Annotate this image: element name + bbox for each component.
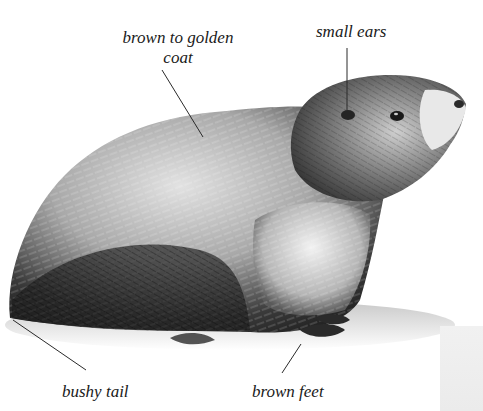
nose <box>454 100 464 108</box>
callout-feet-label: brown feet <box>252 382 324 402</box>
illustration-stage: brown to golden coat small ears bushy ta… <box>0 0 483 411</box>
photo-edge-strip <box>440 326 483 411</box>
marmot-head <box>291 75 466 201</box>
callout-coat-line-1: brown to golden <box>113 28 243 48</box>
ear <box>341 110 355 120</box>
eye <box>390 111 404 121</box>
callout-coat-label: brown to golden coat <box>113 28 243 68</box>
callout-ears-label: small ears <box>316 22 386 42</box>
callout-tail-label: bushy tail <box>62 382 129 402</box>
callout-coat-line-2: coat <box>113 48 243 68</box>
